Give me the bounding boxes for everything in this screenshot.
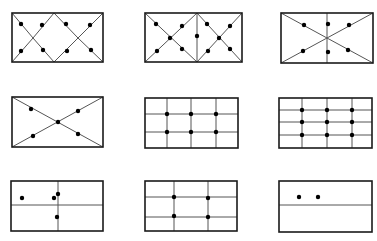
marked-point xyxy=(206,215,210,219)
panel-border xyxy=(145,13,242,62)
marked-point xyxy=(155,49,159,53)
panel-3 xyxy=(281,13,373,63)
marked-point xyxy=(19,49,23,53)
marked-point xyxy=(350,108,354,112)
marked-point xyxy=(300,108,304,112)
marked-point xyxy=(214,130,218,134)
marked-point xyxy=(154,22,158,26)
marked-point xyxy=(228,24,232,28)
panel-border xyxy=(12,13,103,62)
marked-point xyxy=(180,24,184,28)
marked-point xyxy=(297,195,301,199)
panel-8 xyxy=(145,181,237,231)
marked-point xyxy=(217,36,221,40)
marked-point xyxy=(31,134,35,138)
marked-point xyxy=(165,112,169,116)
marked-point xyxy=(301,49,305,53)
marked-point xyxy=(89,48,93,52)
marked-point xyxy=(205,22,209,26)
panel-7 xyxy=(11,181,103,231)
marked-point xyxy=(316,195,320,199)
marked-point xyxy=(56,192,60,196)
marked-point xyxy=(325,108,329,112)
marked-point xyxy=(41,48,45,52)
marked-point xyxy=(325,120,329,124)
marked-point xyxy=(19,22,23,26)
marked-point xyxy=(195,34,199,38)
marked-point xyxy=(52,196,56,200)
marked-point xyxy=(300,133,304,137)
marked-point xyxy=(206,49,210,53)
marked-point xyxy=(168,36,172,40)
diagram-svg xyxy=(0,0,377,241)
marked-point xyxy=(347,23,351,27)
marked-point xyxy=(40,23,44,27)
diagram-figure xyxy=(0,0,377,241)
panel-6 xyxy=(279,98,372,148)
marked-point xyxy=(228,47,232,51)
marked-point xyxy=(180,47,184,51)
panel-border xyxy=(145,181,237,231)
marked-point xyxy=(88,23,92,27)
marked-point xyxy=(20,196,24,200)
marked-point xyxy=(189,130,193,134)
marked-point xyxy=(350,120,354,124)
marked-point xyxy=(56,120,60,124)
panel-border xyxy=(279,181,372,232)
panel-9 xyxy=(279,181,372,232)
marked-point xyxy=(172,195,176,199)
marked-point xyxy=(326,22,330,26)
marked-point xyxy=(29,107,33,111)
panel-1 xyxy=(12,13,103,62)
marked-point xyxy=(214,112,218,116)
marked-point xyxy=(76,132,80,136)
marked-point xyxy=(206,196,210,200)
panel-border xyxy=(11,181,103,231)
panel-2 xyxy=(145,13,242,62)
marked-point xyxy=(346,48,350,52)
marked-point xyxy=(64,22,68,26)
panel-4 xyxy=(12,97,103,147)
marked-point xyxy=(165,130,169,134)
marked-point xyxy=(65,49,69,53)
marked-point xyxy=(300,120,304,124)
marked-point xyxy=(325,133,329,137)
panel-5 xyxy=(145,98,238,148)
marked-point xyxy=(189,112,193,116)
marked-point xyxy=(350,133,354,137)
marked-point xyxy=(76,109,80,113)
marked-point xyxy=(55,215,59,219)
marked-point xyxy=(172,214,176,218)
marked-point xyxy=(302,23,306,27)
marked-point xyxy=(326,50,330,54)
